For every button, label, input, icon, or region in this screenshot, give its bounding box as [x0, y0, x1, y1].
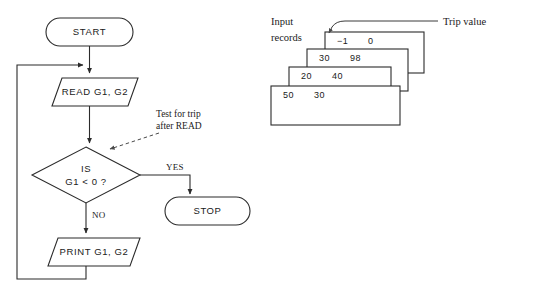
- record-card-3-field1: 20: [301, 71, 312, 81]
- input-records-label-line2: records: [271, 32, 302, 43]
- connector-yes-to-stop: [140, 175, 190, 194]
- record-card-4-field1: 50: [283, 90, 294, 100]
- node-start-label: START: [73, 26, 106, 37]
- node-stop-label: STOP: [193, 205, 221, 216]
- trip-value-callout-label: Trip value: [443, 16, 486, 27]
- record-card-2-field2: 98: [350, 53, 361, 63]
- annotation-note-line1: Test for trip: [156, 109, 201, 119]
- trip-value-leader-line: [329, 21, 438, 33]
- diagram-canvas: START READ G1, G2 IS G1 < 0 ? YES STOP N…: [0, 0, 539, 297]
- record-card-3-field2: 40: [332, 71, 343, 81]
- annotation-note-line2: after READ: [156, 121, 202, 131]
- input-records-label-line1: Input: [271, 16, 293, 27]
- node-decision: IS G1 < 0 ?: [32, 147, 140, 203]
- edge-label-no: NO: [92, 210, 106, 220]
- record-card-1-field1: −1: [337, 36, 348, 46]
- node-start: START: [46, 18, 133, 46]
- node-read: READ G1, G2: [52, 78, 138, 106]
- node-stop: STOP: [165, 197, 250, 225]
- node-print: PRINT G1, G2: [48, 238, 140, 266]
- record-card-2-field1: 30: [319, 53, 330, 63]
- flowchart-figure: START READ G1, G2 IS G1 < 0 ? YES STOP N…: [0, 0, 539, 297]
- record-card-4: 50 30: [271, 86, 400, 125]
- node-decision-line1: IS: [81, 163, 91, 174]
- annotation-leader-line: [110, 133, 159, 149]
- record-card-4-field2: 30: [314, 90, 325, 100]
- edge-label-yes: YES: [166, 162, 184, 172]
- node-print-label: PRINT G1, G2: [60, 246, 129, 257]
- node-read-label: READ G1, G2: [62, 86, 128, 97]
- record-card-1-field2: 0: [368, 36, 373, 46]
- node-decision-line2: G1 < 0 ?: [65, 176, 107, 187]
